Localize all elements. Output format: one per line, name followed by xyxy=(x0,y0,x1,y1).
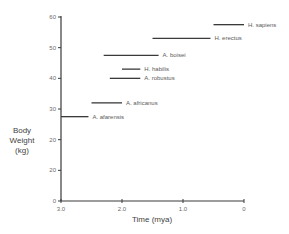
species-label: A. africanus xyxy=(126,100,158,106)
y-tick-label: 30 xyxy=(49,106,56,112)
x-axis-title: Time (mya) xyxy=(132,215,172,224)
y-axis-title-line-3: (kg) xyxy=(15,146,29,155)
y-tick-label: 20 xyxy=(49,167,56,173)
species-label: A. afarensis xyxy=(92,114,124,120)
x-tick-label: 2.0 xyxy=(118,206,127,212)
x-tick-label: 1.0 xyxy=(179,206,188,212)
species-label: A. boisei xyxy=(163,52,186,58)
species-label: H. erectus xyxy=(214,35,241,41)
y-tick-label: 0 xyxy=(53,198,57,204)
y-tick-label: 20 xyxy=(49,137,56,143)
y-axis-title-line-1: Body xyxy=(13,126,31,135)
body-weight-chart: 0202030405060 3.02.01.00 A. afarensisA. … xyxy=(0,0,289,234)
x-tick-label: 3.0 xyxy=(57,206,66,212)
x-tick-label: 0 xyxy=(242,206,246,212)
y-tick-label: 50 xyxy=(49,45,56,51)
species-range-bars: A. afarensisA. africanusA. robustusH. ha… xyxy=(61,22,276,120)
y-axis-ticks: 0202030405060 xyxy=(49,14,61,204)
species-label: A. robustus xyxy=(144,75,174,81)
species-label: H. habilis xyxy=(144,66,169,72)
species-label: H. sapiens xyxy=(248,22,276,28)
y-tick-label: 60 xyxy=(49,14,56,20)
y-axis-title-line-2: Weight xyxy=(10,136,36,145)
y-tick-label: 40 xyxy=(49,75,56,81)
